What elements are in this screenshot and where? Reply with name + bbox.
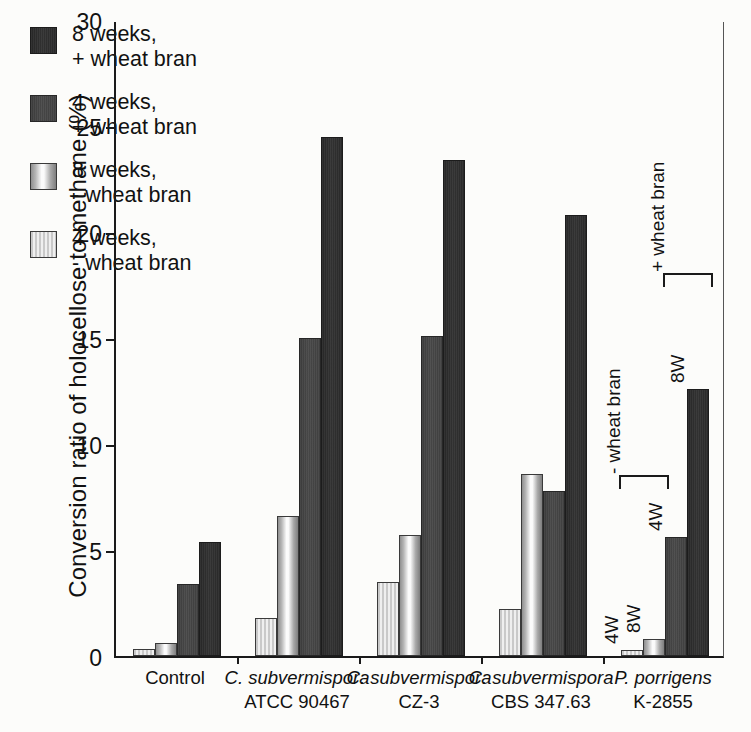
y-axis-tick — [106, 339, 116, 341]
bar-group — [255, 22, 343, 656]
x-axis-tick — [237, 656, 239, 664]
x-axis-category-label: P. porrigensK-2855 — [590, 666, 736, 713]
bar — [321, 137, 343, 656]
bar — [499, 609, 521, 656]
bar — [399, 535, 421, 656]
bar — [687, 389, 709, 656]
bar — [521, 474, 543, 656]
annotation-4w-minus-bran: 4W — [601, 615, 623, 644]
annotation-plus-wheat-bran: + wheat bran — [647, 162, 669, 272]
bar — [155, 643, 177, 656]
x-axis-category-line2: ATCC 90467 — [244, 691, 350, 712]
y-axis-tick — [106, 445, 116, 447]
bar-group — [499, 22, 587, 656]
bar-group — [621, 22, 709, 656]
x-axis-category-line1: P. porrigens — [614, 667, 711, 688]
y-axis-tick-label: 0 — [42, 645, 102, 672]
bar — [443, 160, 465, 656]
bar — [133, 649, 155, 656]
bar — [421, 336, 443, 656]
bar — [643, 639, 665, 656]
annotation-minus-wheat-bran: - wheat bran — [603, 368, 625, 474]
x-axis-category-line2: CBS 347.63 — [491, 691, 591, 712]
y-axis-tick-label: 25 — [42, 115, 102, 142]
annotation-4w-plus-bran: 4W — [645, 503, 667, 532]
bar — [299, 338, 321, 656]
bar-chart: Conversion ratio of holocellose to metha… — [0, 0, 751, 732]
x-axis-tick — [481, 656, 483, 664]
y-axis-tick-label: 30 — [42, 9, 102, 36]
bar — [621, 650, 643, 656]
bar — [543, 491, 565, 656]
bar — [665, 537, 687, 656]
bar — [565, 215, 587, 656]
bar — [255, 618, 277, 656]
x-axis-category-line1: Control — [145, 667, 205, 688]
bar — [177, 584, 199, 656]
bar — [199, 542, 221, 656]
y-axis-tick-label: 5 — [42, 539, 102, 566]
y-axis-tick — [106, 551, 116, 553]
bracket-plus-wheat-bran — [663, 273, 713, 287]
bar — [277, 516, 299, 656]
bracket-minus-wheat-bran — [619, 475, 669, 489]
legend-swatch-8w-minus-bran — [30, 163, 57, 190]
y-axis-tick-label: 10 — [42, 433, 102, 460]
y-axis-tick-label: 20 — [42, 221, 102, 248]
y-axis-tick — [106, 127, 116, 129]
y-axis-tick-label: 15 — [42, 327, 102, 354]
annotation-8w-minus-bran: 8W — [623, 605, 645, 634]
x-axis-category-line2: K-2855 — [633, 691, 693, 712]
x-axis-labels: ControlC. subvermisporaATCC 90467C. subv… — [114, 666, 724, 728]
bar — [377, 582, 399, 656]
annotation-8w-plus-bran: 8W — [667, 354, 689, 383]
plot-area: 0510152025304W8W4W8W- wheat bran+ wheat … — [114, 22, 724, 658]
x-axis-category-line2: CZ-3 — [398, 691, 439, 712]
bar-group — [377, 22, 465, 656]
y-axis-tick — [106, 233, 116, 235]
bar-group — [133, 22, 221, 656]
x-axis-tick — [359, 656, 361, 664]
x-axis-tick — [603, 656, 605, 664]
